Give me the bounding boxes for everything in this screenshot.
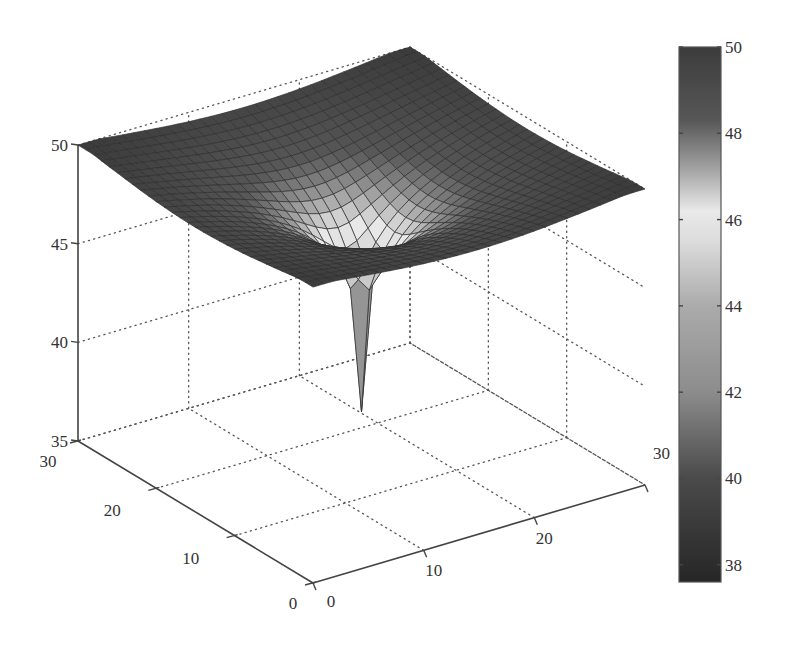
z-tick-label: 40: [51, 333, 68, 352]
surface-plot: 3540455001020300102030 38404244464850: [0, 0, 786, 645]
colorbar-tick-label: 46: [725, 211, 742, 230]
x-tick-mark: [645, 485, 648, 492]
surface-mesh: [78, 47, 645, 412]
y-tick-label: 10: [182, 549, 199, 568]
colorbar-tick-label: 50: [725, 38, 742, 57]
x-tick-mark: [313, 583, 316, 590]
y-tick-label: 0: [289, 594, 298, 613]
x-tick-label: 0: [327, 592, 336, 611]
colorbar-tick-label: 44: [725, 297, 743, 316]
z-tick-label: 35: [51, 432, 68, 451]
colorbar-tick-label: 40: [725, 469, 742, 488]
colorbar: 38404244464850: [679, 38, 743, 582]
y-tick-label: 30: [40, 452, 57, 471]
x-tick-label: 30: [653, 444, 670, 463]
x-tick-mark: [534, 518, 537, 525]
y-tick-label: 20: [104, 501, 121, 520]
colorbar-tick-label: 48: [725, 124, 742, 143]
z-tick-label: 45: [51, 235, 68, 254]
z-tick-label: 50: [51, 136, 68, 155]
floor-grid-line: [156, 390, 488, 488]
x-tick-label: 20: [536, 529, 553, 548]
x-axis-line: [313, 485, 645, 583]
x-tick-label: 10: [425, 561, 442, 580]
z-tick-mark: [71, 243, 78, 244]
z-tick-mark: [71, 144, 78, 145]
colorbar-tick-label: 42: [725, 383, 742, 402]
z-tick-mark: [71, 341, 78, 342]
colorbar-gradient: [679, 47, 721, 582]
colorbar-tick-label: 38: [725, 556, 742, 575]
x-tick-mark: [424, 550, 427, 557]
floor-grid-line: [235, 438, 567, 536]
